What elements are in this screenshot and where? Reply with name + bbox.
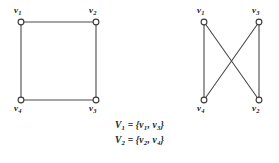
caption-line-v2-set: V2 = {v2, v4} [0,133,279,148]
caption: V1 = {v1, v3} V2 = {v2, v4} [0,118,279,148]
caption-line-v1-set: V1 = {v1, v3} [0,118,279,133]
vertex-v3 [93,97,99,103]
square-cycle-graph: v1 v2 v3 v4 [0,0,140,118]
bipartite-graph-figure: v1 v2 v3 v4 v1 v3 v4 v2 V1 = {v1, v3} [0,0,279,163]
vertex-label-v1: v1 [14,6,21,15]
vertex-label-v4: v4 [14,104,21,113]
vertex-v3 [256,19,262,25]
vertex-label-v2: v2 [89,6,96,15]
vertex-label-v1: v1 [197,6,204,15]
vertex-label-v3: v3 [89,104,96,113]
square-cycle-graph-canvas [0,0,140,118]
graph-edges [204,22,259,100]
vertex-label-v3: v3 [252,6,259,15]
vertex-v4 [18,97,24,103]
vertex-v1 [18,19,24,25]
graph-vertices [18,19,99,103]
vertex-v1 [201,19,207,25]
bipartite-redraw-graph: v1 v3 v4 v2 [140,0,279,118]
vertex-label-v2: v2 [252,104,259,113]
graph-edges [21,22,96,100]
vertex-v4 [201,97,207,103]
vertex-v2 [93,19,99,25]
vertex-v2 [256,97,262,103]
bipartite-redraw-graph-canvas [140,0,279,118]
vertex-label-v4: v4 [197,104,204,113]
